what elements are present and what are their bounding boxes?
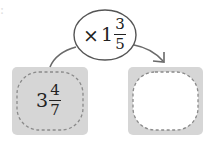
operator-fraction: 3 5	[114, 17, 126, 52]
arrow-line	[134, 45, 163, 61]
result-input-area[interactable]	[133, 72, 198, 130]
multiply-symbol: ×	[83, 24, 99, 46]
start-fraction: 4 7	[49, 83, 61, 118]
start-denominator: 7	[50, 103, 60, 118]
operator-denominator: 5	[115, 37, 125, 52]
start-value: 3 4 7	[36, 83, 61, 118]
operator-numerator: 3	[115, 17, 125, 32]
cropped-mark: :	[0, 3, 4, 17]
operator-label: × 1 3 5	[83, 17, 126, 52]
connector-line	[50, 47, 76, 67]
operator-whole: 1	[101, 25, 113, 44]
start-numerator: 4	[50, 83, 60, 98]
start-whole: 3	[36, 91, 48, 110]
